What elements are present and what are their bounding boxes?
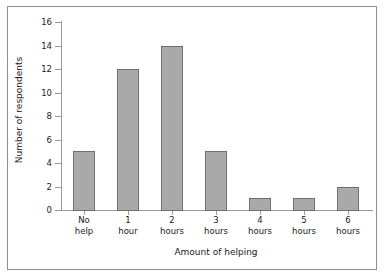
y-axis-tick: [55, 46, 62, 47]
y-axis-tick: [55, 69, 62, 70]
bar: [293, 198, 315, 211]
chart-figure: 0246810121416 No help1 hour2 hours3 hour…: [0, 0, 386, 279]
bar: [337, 187, 359, 212]
y-axis-tick: [55, 187, 62, 188]
bar: [249, 198, 271, 211]
bar: [73, 151, 95, 211]
x-axis-title: Amount of helping: [62, 247, 370, 257]
bar: [205, 151, 227, 211]
y-axis-tick: [55, 93, 62, 94]
y-axis-title: Number of respondents: [14, 25, 24, 195]
y-axis-tick-label: 0: [12, 206, 52, 215]
bar: [117, 69, 139, 211]
y-axis-tick: [55, 163, 62, 164]
y-axis-tick: [55, 116, 62, 117]
y-axis-tick: [55, 140, 62, 141]
bar: [161, 46, 183, 212]
y-axis-tick: [55, 22, 62, 23]
y-axis-tick: [55, 210, 62, 211]
x-axis-tick-label: 6 hours: [322, 215, 374, 237]
